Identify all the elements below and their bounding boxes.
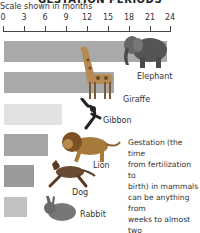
note-line: birth) in mammals xyxy=(128,181,200,192)
label-elephant: Elephant xyxy=(137,72,172,81)
note-line: can be anything from xyxy=(128,192,200,214)
bar-dog xyxy=(4,165,34,187)
label-giraffe: Giraffe xyxy=(123,95,150,104)
gibbon-icon xyxy=(76,98,102,130)
tick-label: 0 xyxy=(0,13,5,22)
rabbit-icon xyxy=(40,196,80,222)
tick-label: 21 xyxy=(145,13,155,22)
label-lion: Lion xyxy=(93,161,110,170)
tick-label: 9 xyxy=(63,13,68,22)
tick xyxy=(66,26,67,32)
label-rabbit: Rabbit xyxy=(80,210,106,219)
dog-icon xyxy=(42,158,96,190)
label-dog: Dog xyxy=(72,188,88,197)
tick xyxy=(24,26,25,32)
tick-label: 15 xyxy=(103,13,113,22)
tick xyxy=(45,26,46,32)
bar-gibbon xyxy=(4,104,62,125)
label-gibbon: Gibbon xyxy=(103,116,132,125)
note-line: weeks to almost two xyxy=(128,214,200,233)
tick xyxy=(108,26,109,32)
tick xyxy=(150,26,151,32)
bar-rabbit xyxy=(4,197,27,217)
tick-label: 24 xyxy=(165,13,175,22)
tick-label: 6 xyxy=(42,13,47,22)
tick xyxy=(87,26,88,32)
note-line: from fertilization to xyxy=(128,159,200,181)
elephant-icon xyxy=(118,33,170,69)
tick xyxy=(129,26,130,32)
bar-lion xyxy=(4,134,48,156)
tick-label: 12 xyxy=(82,13,92,22)
tick xyxy=(170,26,171,32)
tick xyxy=(3,26,4,32)
giraffe-icon xyxy=(74,44,118,100)
annotation-text: Gestation (the time from fertilization t… xyxy=(128,137,200,233)
month-axis: 0 3 6 9 12 15 18 21 24 xyxy=(3,22,171,32)
tick-label: 18 xyxy=(124,13,134,22)
tick-label: 3 xyxy=(21,13,26,22)
note-line: Gestation (the time xyxy=(128,137,200,159)
scale-label: Scale shown in months xyxy=(0,2,92,11)
